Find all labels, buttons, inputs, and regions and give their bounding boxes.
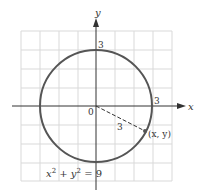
- x-intercept-label: 3: [154, 96, 160, 106]
- axes: [12, 24, 180, 190]
- radius-label: 3: [117, 122, 123, 132]
- circle-diagram: y x 0 3 3 3 (x, y) x2 + y2 = 9: [0, 0, 201, 196]
- y-axis-label: y: [94, 7, 101, 18]
- origin-label: 0: [88, 107, 94, 117]
- equation-label: x2 + y2 = 9: [46, 167, 102, 179]
- point-marker: [143, 129, 147, 133]
- y-intercept-label: 3: [98, 40, 104, 50]
- y-axis-arrow-icon: [93, 18, 99, 27]
- x-axis-arrow-icon: [177, 103, 186, 109]
- x-axis-label: x: [188, 101, 194, 112]
- point-label: (x, y): [148, 129, 171, 139]
